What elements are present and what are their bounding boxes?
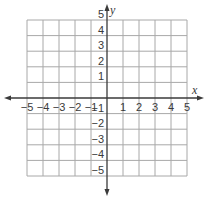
y-tick-label: 4 bbox=[98, 24, 104, 36]
coordinate-plane: −5−4−3−2−112345 54321−1−2−3−4−5 x y bbox=[0, 0, 208, 198]
y-axis-down-arrow-icon bbox=[105, 189, 110, 196]
y-tick-label: −1 bbox=[91, 102, 104, 114]
x-tick-label: −2 bbox=[69, 101, 82, 113]
y-tick-label: −5 bbox=[91, 164, 104, 176]
x-tick-label: 2 bbox=[136, 101, 142, 113]
y-axis-up-arrow-icon bbox=[105, 4, 110, 11]
x-axis-left-arrow-icon bbox=[4, 96, 11, 101]
y-tick-label: −2 bbox=[91, 117, 104, 129]
axes bbox=[4, 4, 204, 196]
x-tick-label: −3 bbox=[53, 101, 66, 113]
x-tick-label: −5 bbox=[21, 101, 34, 113]
y-tick-label: 5 bbox=[98, 8, 104, 20]
x-tick-label: 5 bbox=[184, 101, 190, 113]
x-axis-label: x bbox=[191, 83, 198, 97]
x-axis-right-arrow-icon bbox=[197, 96, 204, 101]
x-tick-label: 1 bbox=[120, 101, 126, 113]
y-tick-label: 1 bbox=[98, 70, 104, 82]
y-tick-labels: 54321−1−2−3−4−5 bbox=[91, 8, 104, 176]
y-tick-label: −3 bbox=[91, 133, 104, 145]
y-axis-label: y bbox=[109, 3, 116, 17]
x-tick-label: 3 bbox=[152, 101, 158, 113]
x-tick-label: −4 bbox=[37, 101, 50, 113]
y-tick-label: −4 bbox=[91, 148, 104, 160]
x-tick-labels: −5−4−3−2−112345 bbox=[21, 101, 190, 113]
y-tick-label: 3 bbox=[98, 39, 104, 51]
x-tick-label: 4 bbox=[168, 101, 174, 113]
y-tick-label: 2 bbox=[98, 55, 104, 67]
